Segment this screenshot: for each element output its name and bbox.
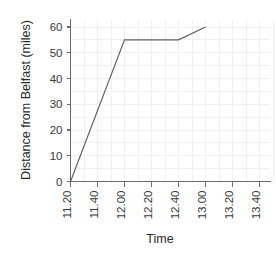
y-tick-label: 50	[50, 47, 63, 59]
x-axis-ticks: 11.2011.4012.0012.2012.4013.0013.2013.40	[61, 182, 262, 220]
distance-time-chart: 0102030405060 11.2011.4012.0012.2012.401…	[0, 0, 276, 256]
chart-svg: 0102030405060 11.2011.4012.0012.2012.401…	[0, 0, 276, 256]
y-tick-label: 40	[50, 73, 63, 85]
y-tick-label: 20	[50, 124, 63, 136]
y-tick-label: 60	[50, 21, 63, 33]
y-tick-label: 30	[50, 98, 63, 110]
x-tick-label: 12.20	[142, 191, 154, 220]
y-tick-label: 0	[56, 176, 62, 188]
x-tick-label: 11.40	[88, 191, 100, 219]
y-axis-ticks: 0102030405060	[50, 21, 71, 188]
plot-area-background	[70, 20, 270, 181]
y-tick-label: 10	[50, 150, 63, 162]
x-tick-label: 11.20	[61, 191, 73, 219]
x-tick-label: 12.00	[115, 191, 127, 220]
x-tick-label: 13.00	[196, 191, 208, 220]
y-axis-title: Distance from Belfast (miles)	[19, 20, 33, 180]
x-axis-title: Time	[146, 232, 173, 246]
x-tick-label: 13.20	[223, 191, 235, 220]
x-tick-label: 13.40	[250, 191, 262, 220]
x-tick-label: 12.40	[169, 191, 181, 220]
